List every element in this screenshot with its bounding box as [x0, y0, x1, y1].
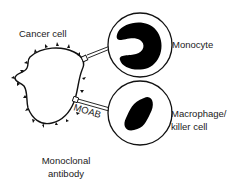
antibody-label-line1: Monoclonal: [42, 155, 91, 166]
antibody-bridge-monocyte: [81, 46, 110, 62]
macrophage-label-line2: killer cell: [171, 121, 207, 132]
antibody-label-line2: antibody: [48, 168, 84, 179]
diagram-canvas: Cancer cell Monocyte Macrophage/ killer …: [0, 0, 243, 190]
macrophage-cell: [108, 81, 172, 145]
cancer-cell-outline: [15, 48, 84, 124]
cancer-cell: [11, 42, 86, 128]
cancer-cell-label: Cancer cell: [19, 28, 67, 39]
monocyte-cell: [108, 13, 172, 77]
macrophage-label-line1: Macrophage/: [171, 108, 227, 119]
monocyte-label: Monocyte: [172, 39, 213, 50]
